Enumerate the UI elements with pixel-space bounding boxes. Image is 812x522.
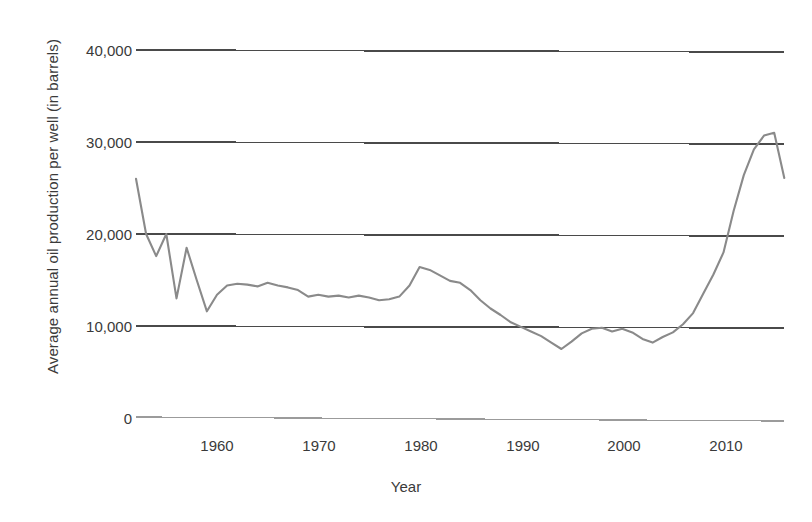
gridline-20000 [136,234,784,236]
gridline-10000 [136,326,784,328]
data-series-line [136,133,784,349]
x-tick-label-1990: 1990 [483,437,563,454]
x-tick-label-1980: 1980 [381,437,461,454]
x-tick-label-2010: 2010 [686,437,766,454]
gridline-40000 [136,50,784,52]
gridline-30000 [136,142,784,144]
gridline-0-baseline [136,417,784,421]
oil-production-line-chart: Average annual oil production per well (… [0,0,812,522]
x-tick-label-1970: 1970 [279,437,359,454]
x-axis-title: Year [0,478,812,495]
x-tick-label-2000: 2000 [584,437,664,454]
x-tick-label-1960: 1960 [177,437,257,454]
gridlines [136,50,784,421]
